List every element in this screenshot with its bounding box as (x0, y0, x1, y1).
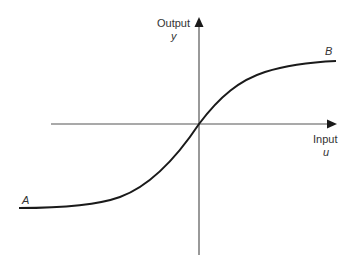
curve-point-b-label: B (325, 45, 332, 57)
x-axis-label: Input (313, 133, 337, 145)
curve-point-a-label: A (22, 194, 29, 206)
y-axis-label: Output (157, 17, 190, 29)
x-axis-symbol: u (323, 146, 329, 158)
diagram-canvas (0, 0, 356, 264)
sigmoid-curve (19, 61, 336, 208)
x-axis-arrowhead-icon (327, 120, 337, 129)
y-axis-symbol: y (171, 30, 177, 42)
y-axis-arrowhead-icon (195, 17, 204, 27)
